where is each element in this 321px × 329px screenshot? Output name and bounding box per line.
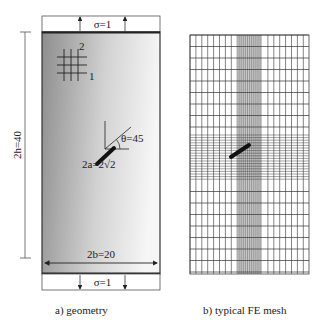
geometry-panel: σ=1 2 1 θ=45 2a=2√2 2b=20 (11, 16, 160, 290)
bottom-load-box: σ=1 (42, 274, 160, 290)
bottom-load-label: σ=1 (94, 276, 112, 288)
crack-length-label: 2a=2√2 (82, 158, 116, 170)
axis-1-label: 1 (89, 70, 95, 82)
height-label: 2h=40 (11, 130, 23, 159)
plate (42, 32, 160, 274)
fe-mesh-panel (190, 35, 309, 274)
axis-2-label: 2 (79, 40, 85, 52)
figure-canvas: σ=1 2 1 θ=45 2a=2√2 2b=20 (0, 0, 321, 329)
caption-fe-mesh: b) typical FE mesh (203, 304, 286, 316)
caption-geometry: a) geometry (55, 304, 108, 316)
width-label: 2b=20 (87, 248, 116, 260)
top-load-box: σ=1 (42, 16, 160, 32)
top-load-label: σ=1 (94, 18, 112, 30)
crack-angle-label: θ=45 (121, 132, 144, 144)
